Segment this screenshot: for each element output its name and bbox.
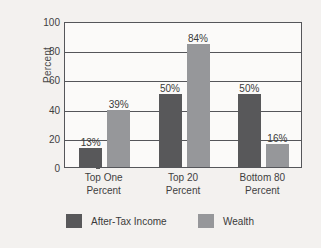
bars-layer: 13%39%50%84%50%16% — [65, 23, 301, 167]
x-tick-label-line: Percent — [61, 185, 147, 198]
x-axis-tick-labels: Top OnePercentTop 20PercentBottom 80Perc… — [64, 172, 302, 200]
plot-area: 13%39%50%84%50%16% — [64, 22, 302, 168]
y-tick-label: 60 — [36, 75, 60, 86]
bar-income — [238, 94, 261, 167]
legend-item[interactable]: After-Tax Income — [66, 212, 167, 230]
y-tick-label: 0 — [36, 163, 60, 174]
y-tick-mark — [96, 168, 100, 169]
bar-wealth — [187, 44, 210, 167]
y-tick-label: 40 — [36, 104, 60, 115]
x-tick-label-line: Percent — [140, 185, 226, 198]
x-tick-label: Top 20Percent — [140, 172, 226, 197]
bar-value-label: 50% — [239, 83, 259, 94]
bar-value-label: 39% — [109, 99, 129, 110]
legend-swatch-icon — [198, 214, 214, 228]
bar-chart: Percent 020406080100 13%39%50%84%50%16% … — [0, 0, 321, 248]
bar-value-label: 13% — [81, 137, 101, 148]
legend-item[interactable]: Wealth — [198, 212, 254, 230]
bar-wealth — [107, 110, 130, 167]
bar-income — [79, 148, 102, 167]
y-axis-tick-labels: 020406080100 — [36, 22, 60, 168]
y-tick-label: 80 — [36, 46, 60, 57]
bar-value-label: 84% — [188, 33, 208, 44]
legend-swatch-icon — [66, 214, 82, 228]
legend-label: Wealth — [223, 216, 254, 227]
y-tick-label: 100 — [36, 17, 60, 28]
x-tick-label-line: Top One — [61, 172, 147, 185]
x-tick-label-line: Bottom 80 — [219, 172, 305, 185]
x-tick-label: Top OnePercent — [61, 172, 147, 197]
bar-income — [159, 94, 182, 167]
y-tick-label: 20 — [36, 133, 60, 144]
legend-label: After-Tax Income — [91, 216, 167, 227]
x-tick-label-line: Percent — [219, 185, 305, 198]
bar-value-label: 16% — [267, 133, 287, 144]
chart-legend: After-Tax IncomeWealth — [0, 212, 321, 234]
x-tick-label: Bottom 80Percent — [219, 172, 305, 197]
bar-value-label: 50% — [160, 83, 180, 94]
x-tick-label-line: Top 20 — [140, 172, 226, 185]
bar-wealth — [266, 144, 289, 167]
